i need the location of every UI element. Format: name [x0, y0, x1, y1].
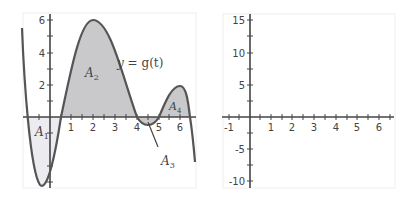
- right-x-tick-label-3: 3: [311, 122, 317, 133]
- right-x-tick-label-1: 1: [268, 122, 274, 133]
- left-x-tick-label-2: 2: [90, 122, 96, 133]
- figure-canvas: 1 2 3 4 5 6 2 4 6 A1 A2 A3 A4 y = g(t): [0, 0, 419, 197]
- right-x-tick-label-2: 2: [289, 122, 295, 133]
- left-x-tick-label-1: 1: [68, 122, 74, 133]
- right-x-tick-label-6: 6: [376, 122, 382, 133]
- left-chart: 1 2 3 4 5 6 2 4 6 A1 A2 A3 A4 y = g(t): [22, 13, 196, 188]
- left-x-tick-label-4: 4: [134, 122, 140, 133]
- left-y-tick-label-2: 2: [39, 80, 45, 91]
- right-x-tick-label-neg1: -1: [224, 122, 234, 133]
- right-y-tick-label-neg10: -10: [229, 176, 245, 187]
- right-y-tick-label-15: 15: [232, 15, 245, 26]
- right-y-tick-label-neg5: -5: [235, 144, 245, 155]
- right-y-tick-label-5: 5: [239, 80, 245, 91]
- left-y-tick-label-4: 4: [39, 48, 45, 59]
- region-label-a3: A3: [160, 154, 175, 170]
- right-x-tick-label-4: 4: [333, 122, 339, 133]
- curve-label: y = g(t): [116, 56, 163, 70]
- left-x-tick-label-6: 6: [177, 122, 183, 133]
- left-y-tick-label-6: 6: [39, 15, 45, 26]
- left-x-tick-label-3: 3: [112, 122, 118, 133]
- right-chart: -1 1 2 3 4 5 6 15 10 5 -5 -10: [222, 14, 395, 188]
- left-x-tick-label-5: 5: [156, 122, 162, 133]
- right-y-tick-label-10: 10: [232, 48, 245, 59]
- right-x-tick-label-5: 5: [354, 122, 360, 133]
